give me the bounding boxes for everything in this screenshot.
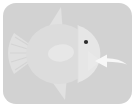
fish-illustration	[3, 3, 132, 104]
illustration-card: Light gray fish icon with a white arrow …	[3, 3, 132, 104]
fish-eye-icon	[84, 40, 88, 44]
screenshot-root: Light gray fish icon with a white arrow …	[0, 0, 135, 107]
